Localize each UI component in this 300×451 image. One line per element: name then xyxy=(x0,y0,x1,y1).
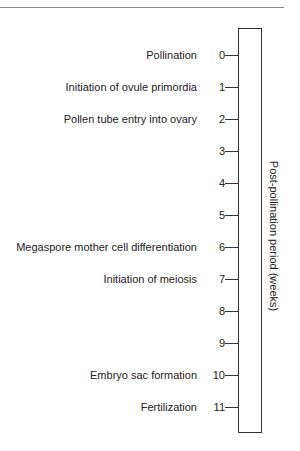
tick-mark xyxy=(225,279,238,280)
tick-mark xyxy=(225,375,238,376)
event-label: Pollen tube entry into ovary xyxy=(64,113,197,125)
event-label: Pollination xyxy=(146,49,197,61)
event-label: Initiation of ovule primordia xyxy=(66,81,197,93)
week-number: 11 xyxy=(214,401,225,413)
week-number: 4 xyxy=(219,177,225,189)
tick-mark xyxy=(225,311,238,312)
week-number: 3 xyxy=(219,145,225,157)
event-label: Embryo sac formation xyxy=(90,369,197,381)
week-number: 1 xyxy=(219,81,225,93)
tick-mark xyxy=(225,55,238,56)
week-number: 5 xyxy=(219,209,225,221)
week-number: 8 xyxy=(219,305,225,317)
tick-mark xyxy=(225,87,238,88)
week-number: 6 xyxy=(219,241,225,253)
event-label: Fertilization xyxy=(141,401,197,413)
tick-mark xyxy=(225,151,238,152)
page-header-rule xyxy=(0,7,284,8)
event-label: Initiation of meiosis xyxy=(103,273,197,285)
tick-mark xyxy=(225,215,238,216)
tick-mark xyxy=(225,183,238,184)
axis-label: Post-pollination period (weeks) xyxy=(268,161,280,311)
tick-mark xyxy=(225,247,238,248)
tick-mark xyxy=(225,407,238,408)
week-number: 0 xyxy=(219,49,225,61)
tick-mark xyxy=(225,343,238,344)
tick-mark xyxy=(225,119,238,120)
week-number: 7 xyxy=(219,273,225,285)
week-number: 9 xyxy=(219,337,225,349)
week-number: 2 xyxy=(219,113,225,125)
week-number: 10 xyxy=(213,369,225,381)
event-label: Megaspore mother cell differentiation xyxy=(16,241,197,253)
timeline-bar xyxy=(238,28,262,433)
